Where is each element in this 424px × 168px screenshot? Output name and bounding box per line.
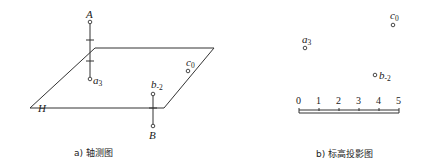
- label-a3: a3: [93, 74, 103, 88]
- scale-tick-label: 1: [316, 95, 321, 106]
- point-b-2: [151, 92, 155, 96]
- caption-axonometric: a) 轴测图: [74, 147, 113, 158]
- label-c0: c0: [390, 9, 399, 23]
- caption-indexed-projection: b) 标高投影图: [316, 148, 373, 159]
- label-a3: a3: [302, 33, 312, 47]
- point-a3: [88, 77, 92, 81]
- indexed-projection-view: a3 c0 b-2 0 1 2 3 4 5 b) 标高投影图: [296, 9, 401, 159]
- point-b-2: [373, 73, 377, 77]
- scale-tick-label: 5: [396, 95, 401, 106]
- point-c0: [186, 69, 190, 73]
- plane-label-h: H: [37, 102, 47, 114]
- scale-tick-label: 4: [376, 95, 381, 106]
- label-b: B: [149, 129, 156, 141]
- point-c0: [391, 23, 395, 27]
- scale-bar: 0 1 2 3 4 5: [296, 95, 401, 113]
- axonometric-view: H A a3 c0 b-2 B a) 轴测图: [30, 8, 214, 158]
- label-a: A: [85, 8, 93, 20]
- scale-tick-label: 2: [336, 95, 341, 106]
- point-b: [151, 124, 155, 128]
- label-b-2: b-2: [379, 69, 391, 83]
- diagram-canvas: H A a3 c0 b-2 B a) 轴测图 a3 c0 b-2: [0, 0, 424, 168]
- label-c0: c0: [186, 56, 195, 70]
- label-b-2: b-2: [151, 78, 163, 92]
- point-a3: [303, 46, 307, 50]
- point-a: [88, 20, 92, 24]
- scale-tick-label: 3: [356, 95, 361, 106]
- scale-tick-label: 0: [296, 95, 301, 106]
